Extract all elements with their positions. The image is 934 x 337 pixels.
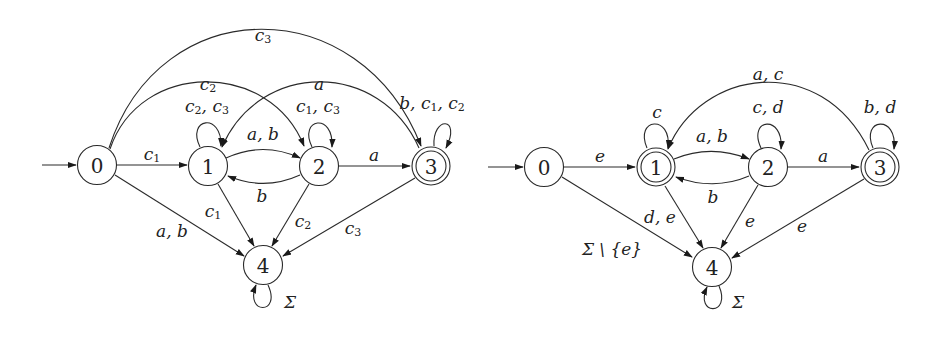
label-edge-1-1: c2, c3 — [185, 96, 229, 117]
label-edge-3-4: e — [797, 216, 807, 236]
edge-1-4 — [218, 184, 254, 246]
state-4: 4 — [693, 248, 732, 287]
state-2: 2 — [749, 148, 788, 187]
label-edge-0-4: a, b — [156, 221, 188, 241]
label-edge-2-2: c, d — [752, 97, 783, 117]
state-3-accepting: 3 — [412, 147, 450, 185]
label-edge-2-2: c1, c3 — [296, 96, 340, 117]
automaton-right: 0 1 2 3 4 e Σ \ {e} c a, b d, e b c, d a… — [488, 64, 899, 312]
state-0: 0 — [78, 146, 117, 185]
edge-0-4 — [115, 175, 244, 256]
label-edge-1-2: a, b — [696, 126, 728, 146]
automata-figure: 0 1 2 3 4 c1 c2 c3 a, b c2, c3 a, b b c1… — [0, 0, 934, 337]
label-edge-0-2: c2 — [200, 74, 217, 95]
label-edge-1-2: a, b — [247, 124, 279, 144]
automaton-left: 0 1 2 3 4 c1 c2 c3 a, b c2, c3 a, b b c1… — [42, 25, 465, 312]
label-edge-1-1: c — [652, 102, 662, 122]
label-edge-4-4: Σ — [283, 292, 297, 312]
state-label: 0 — [91, 154, 104, 178]
edge-2-1 — [228, 175, 300, 183]
edge-2-1 — [676, 176, 749, 184]
label-edge-0-4: Σ \ {e} — [581, 239, 642, 259]
label-edge-1-4: d, e — [644, 207, 676, 227]
state-label: 0 — [538, 156, 551, 180]
label-edge-2-1: b — [257, 186, 268, 206]
edge-3-3 — [870, 124, 894, 149]
label-edge-0-3: c3 — [255, 25, 272, 46]
label-edge-2-4: c2 — [295, 211, 312, 232]
edge-2-2 — [309, 123, 332, 147]
state-4: 4 — [244, 246, 283, 285]
label-edge-3-4: c3 — [345, 218, 362, 239]
state-1-accepting: 1 — [637, 148, 675, 186]
edge-1-2 — [226, 150, 300, 158]
edge-1-1 — [197, 123, 221, 147]
state-2: 2 — [300, 147, 339, 186]
state-label: 1 — [650, 156, 663, 180]
label-edge-3-3: b, c1, c2 — [399, 93, 465, 114]
label-edge-2-3: a — [369, 145, 379, 165]
edge-4-4 — [254, 285, 272, 308]
state-label: 2 — [313, 155, 326, 179]
state-label: 2 — [762, 156, 775, 180]
edge-3-3 — [434, 124, 451, 148]
label-edge-3-1: a, c — [753, 64, 784, 84]
state-label: 4 — [257, 254, 270, 278]
label-edge-2-3: a — [818, 146, 828, 166]
edge-1-1 — [644, 124, 668, 148]
label-edge-2-4: e — [745, 211, 755, 231]
edge-1-2 — [674, 152, 749, 160]
state-3-accepting: 3 — [861, 148, 899, 186]
state-label: 1 — [202, 155, 215, 179]
state-label: 3 — [425, 155, 438, 179]
label-edge-4-4: Σ — [731, 292, 745, 312]
edge-2-2 — [758, 124, 781, 149]
state-1: 1 — [189, 147, 228, 186]
label-edge-1-4: c1 — [205, 201, 222, 222]
label-edge-0-1: c1 — [144, 144, 161, 165]
label-edge-0-1: e — [595, 146, 605, 166]
edge-4-4 — [704, 286, 722, 309]
label-edge-2-1: b — [708, 187, 719, 207]
state-0: 0 — [525, 148, 564, 187]
label-edge-3-3: b, d — [864, 97, 897, 117]
label-edge-3-1: a — [314, 74, 324, 94]
state-label: 4 — [706, 256, 719, 280]
state-label: 3 — [874, 156, 887, 180]
